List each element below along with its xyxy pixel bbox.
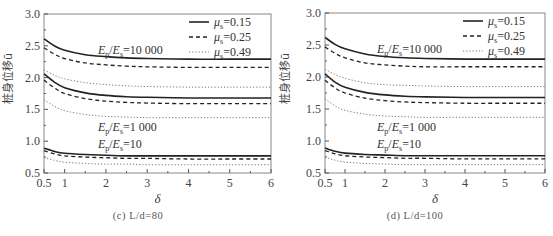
x-tick-label: 6	[542, 176, 548, 190]
y-tick-label: 1.5	[306, 102, 321, 116]
x-tick-label: 3	[144, 176, 150, 190]
legend-label: μs=0.25	[487, 29, 525, 45]
x-tick-label: 5	[502, 176, 508, 190]
series-line-solid	[44, 74, 271, 98]
y-tick-label: 2.5	[25, 39, 40, 53]
x-tick-label: 1	[62, 176, 68, 190]
chart-panel-d: 0.51.01.52.02.53.00.5123456δEp/Es=10 000…	[277, 0, 553, 236]
y-tick-label: 1.5	[25, 102, 40, 116]
line-chart-c: 0.51.01.52.02.53.00.5123456δEp/Es=10 000…	[0, 0, 276, 236]
series-line-dotted	[44, 100, 271, 118]
x-axis-label: δ	[154, 191, 161, 206]
line-chart-d: 0.51.01.52.02.53.00.5123456δEp/Es=10 000…	[277, 0, 553, 236]
x-tick-label: 2	[103, 176, 109, 190]
x-tick-label: 0.5	[37, 176, 52, 190]
series-line-dotted	[325, 157, 545, 165]
legend-label: μs=0.25	[213, 30, 251, 46]
y-tick-label: 1.0	[306, 134, 321, 148]
series-line-solid	[325, 148, 545, 156]
series-line-dotted	[44, 70, 271, 87]
x-tick-label: 4	[185, 176, 191, 190]
caption-c: (c) L/d=80	[0, 210, 276, 221]
y-axis-label: 桩身位移ū	[276, 53, 292, 104]
ratio-annotation: Ep/Es=1 000	[97, 120, 157, 136]
x-tick-label: 0.5	[318, 176, 333, 190]
x-tick-label: 2	[382, 176, 388, 190]
ratio-annotation: Ep/Es=10	[376, 137, 421, 153]
ratio-annotation: Ep/Es=1 000	[376, 120, 436, 136]
x-axis-label: δ	[432, 191, 439, 206]
x-tick-label: 5	[227, 176, 233, 190]
x-tick-label: 4	[462, 176, 468, 190]
legend-label: μs=0.15	[213, 15, 251, 31]
series-line-dotted	[325, 99, 545, 118]
y-tick-label: 3.0	[306, 6, 321, 20]
ratio-annotation: Ep/Es=10	[97, 137, 142, 153]
y-tick-label: 2.0	[25, 71, 40, 85]
y-tick-label: 2.0	[306, 70, 321, 84]
x-tick-label: 6	[268, 176, 274, 190]
x-tick-label: 3	[422, 176, 428, 190]
legend-label: μs=0.15	[487, 14, 525, 30]
ratio-annotation: Ep/Es=10 000	[376, 42, 442, 58]
y-axis-label: 桩身位移ū	[0, 53, 15, 104]
series-line-dashed	[325, 80, 545, 103]
y-tick-label: 3.0	[25, 7, 40, 21]
chart-panel-c: 0.51.01.52.02.53.00.5123456δEp/Es=10 000…	[0, 0, 276, 236]
series-line-dotted	[325, 69, 545, 86]
x-tick-label: 1	[342, 176, 348, 190]
y-tick-label: 1.0	[25, 134, 40, 148]
y-tick-label: 2.5	[306, 38, 321, 52]
legend-label: μs=0.49	[213, 45, 251, 61]
legend-label: μs=0.49	[487, 44, 525, 60]
ratio-annotation: Ep/Es=10 000	[97, 43, 163, 59]
caption-d: (d) L/d=100	[277, 210, 553, 221]
series-line-solid	[44, 148, 271, 156]
